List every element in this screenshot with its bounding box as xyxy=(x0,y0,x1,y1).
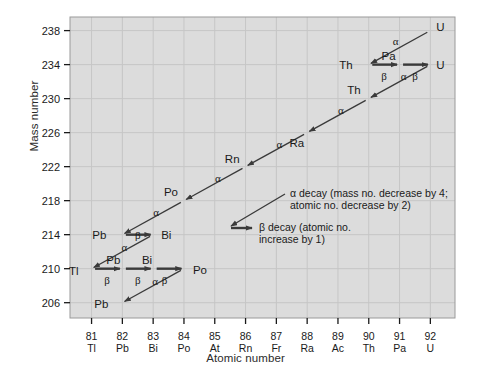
nuclide-label: Bi xyxy=(142,254,152,266)
x-tick-number: 81 xyxy=(86,330,98,342)
y-tick-label: 230 xyxy=(42,93,60,105)
alpha-symbol-label: α xyxy=(401,70,407,82)
y-tick-label: 206 xyxy=(42,297,60,309)
nuclide-label: Pb xyxy=(92,229,106,241)
beta-symbol-label: β xyxy=(135,274,141,286)
x-tick-number: 86 xyxy=(240,330,252,342)
plot-area-background xyxy=(70,17,455,318)
x-tick-number: 83 xyxy=(147,330,159,342)
nuclide-label: U xyxy=(436,59,444,71)
x-axis-tick-labels: 81Tl82Pb83Bi84Po85At86Rn87Fr88Ra89Ac90Th… xyxy=(86,330,437,354)
alpha-symbol-label: α xyxy=(215,172,221,184)
nuclide-label: Pa xyxy=(381,50,396,62)
x-tick-number: 89 xyxy=(332,330,344,342)
y-tick-label: 238 xyxy=(42,25,60,37)
alpha-symbol-label: α xyxy=(338,104,344,116)
beta-symbol-label: β xyxy=(135,229,141,241)
y-axis-title: Mass number xyxy=(28,56,40,176)
x-tick-number: 87 xyxy=(271,330,283,342)
nuclide-label: Pb xyxy=(94,298,108,310)
x-tick-number: 84 xyxy=(178,330,190,342)
beta-legend-line2: increase by 1) xyxy=(259,233,325,245)
nuclide-label: Bi xyxy=(161,229,171,241)
x-tick-number: 85 xyxy=(209,330,221,342)
x-tick-number: 91 xyxy=(394,330,406,342)
nuclide-label: U xyxy=(436,21,444,33)
beta-legend-line1: β decay (atomic no. xyxy=(259,221,351,233)
beta-symbol-label: β xyxy=(412,70,418,82)
y-tick-label: 234 xyxy=(42,59,60,71)
x-tick-number: 92 xyxy=(425,330,437,342)
nuclide-label: Po xyxy=(193,264,207,276)
y-tick-label: 226 xyxy=(42,127,60,139)
alpha-symbol-label: α xyxy=(121,241,127,253)
nuclide-label: Th xyxy=(347,84,360,96)
x-tick-number: 88 xyxy=(301,330,313,342)
alpha-symbol-label: α xyxy=(153,206,159,218)
alpha-legend-line1: α decay (mass no. decrease by 4; xyxy=(290,187,448,199)
alpha-symbol-label: α xyxy=(152,275,158,287)
chart-canvas: UThPaUThRaRnPoPbBiTlPbBiPoPb αββαααααβαβ… xyxy=(0,0,491,373)
nuclide-label: Ra xyxy=(289,137,304,149)
nuclide-label: Th xyxy=(339,59,352,71)
y-tick-label: 214 xyxy=(42,229,60,241)
alpha-symbol-label: α xyxy=(393,35,399,47)
beta-symbol-label: β xyxy=(104,274,110,286)
x-axis-title: Atomic number xyxy=(0,352,491,364)
nuclide-label: Tl xyxy=(69,265,79,277)
y-tick-label: 210 xyxy=(42,263,60,275)
beta-symbol-label: β xyxy=(381,70,387,82)
decay-series-figure: UThPaUThRaRnPoPbBiTlPbBiPoPb αββαααααβαβ… xyxy=(0,0,491,373)
y-axis-tick-labels: 206210214218222226230234238 xyxy=(42,25,60,309)
nuclide-label: Rn xyxy=(225,153,240,165)
y-tick-label: 222 xyxy=(42,161,60,173)
y-tick-label: 218 xyxy=(42,195,60,207)
nuclide-label: Po xyxy=(164,186,178,198)
x-tick-number: 90 xyxy=(363,330,375,342)
alpha-symbol-label: α xyxy=(276,138,282,150)
beta-symbol-label: β xyxy=(162,274,168,286)
x-tick-number: 82 xyxy=(117,330,129,342)
nuclide-label: Pb xyxy=(106,254,120,266)
alpha-legend-line2: atomic no. decrease by 2) xyxy=(290,199,411,211)
